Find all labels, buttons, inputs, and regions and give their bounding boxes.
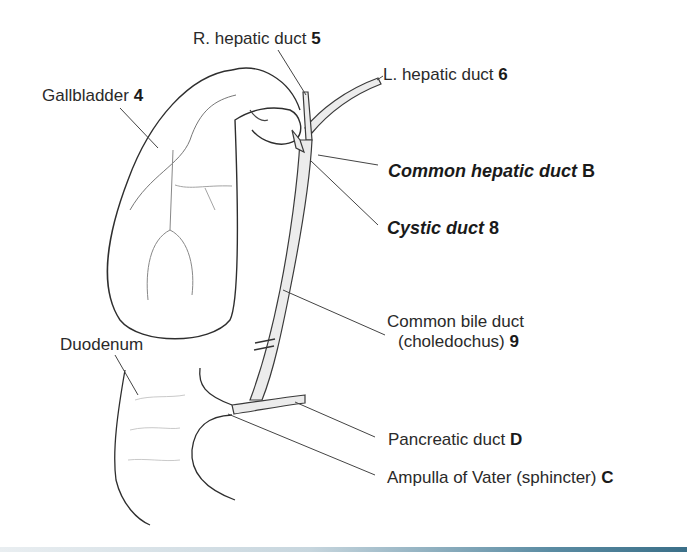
label-l-hepatic-duct: L. hepatic duct 6	[383, 66, 508, 83]
label-text: Ampulla of Vater (sphincter)	[387, 468, 601, 487]
label-text: Cystic duct	[387, 218, 489, 238]
label-key: B	[582, 161, 595, 181]
label-gallbladder: Gallbladder 4	[42, 87, 143, 104]
label-text: Duodenum	[60, 335, 143, 354]
label-text: Common hepatic duct	[388, 161, 582, 181]
label-common-bile-duct: Common bile duct (choledochus) 9	[387, 313, 524, 350]
label-text: Common bile duct	[387, 313, 524, 330]
label-text: L. hepatic duct	[383, 65, 498, 84]
label-key: C	[601, 468, 613, 487]
label-r-hepatic-duct: R. hepatic duct 5	[193, 30, 321, 47]
label-key: 9	[510, 332, 519, 351]
label-key: 4	[134, 86, 143, 105]
label-ampulla-of-vater: Ampulla of Vater (sphincter) C	[387, 469, 613, 486]
label-text: Pancreatic duct	[388, 430, 510, 449]
bottom-accent-bar	[0, 547, 687, 552]
duodenum-drawing	[115, 368, 235, 525]
anatomy-diagram: R. hepatic duct 5 L. hepatic duct 6 Gall…	[0, 0, 687, 552]
label-text: Gallbladder	[42, 86, 134, 105]
label-cystic-duct: Cystic duct 8	[387, 219, 499, 237]
label-key: D	[510, 430, 522, 449]
gallbladder-drawing	[108, 68, 301, 339]
label-common-hepatic-duct: Common hepatic duct B	[388, 162, 595, 180]
label-subtext: (choledochus) 9	[387, 333, 524, 350]
label-key: 8	[489, 218, 499, 238]
duct-drawing	[232, 78, 381, 414]
label-key: 5	[311, 29, 320, 48]
label-text-2: (choledochus)	[398, 332, 510, 351]
label-duodenum: Duodenum	[60, 336, 143, 353]
label-pancreatic-duct: Pancreatic duct D	[388, 431, 522, 448]
label-key: 6	[498, 65, 507, 84]
label-text: R. hepatic duct	[193, 29, 311, 48]
